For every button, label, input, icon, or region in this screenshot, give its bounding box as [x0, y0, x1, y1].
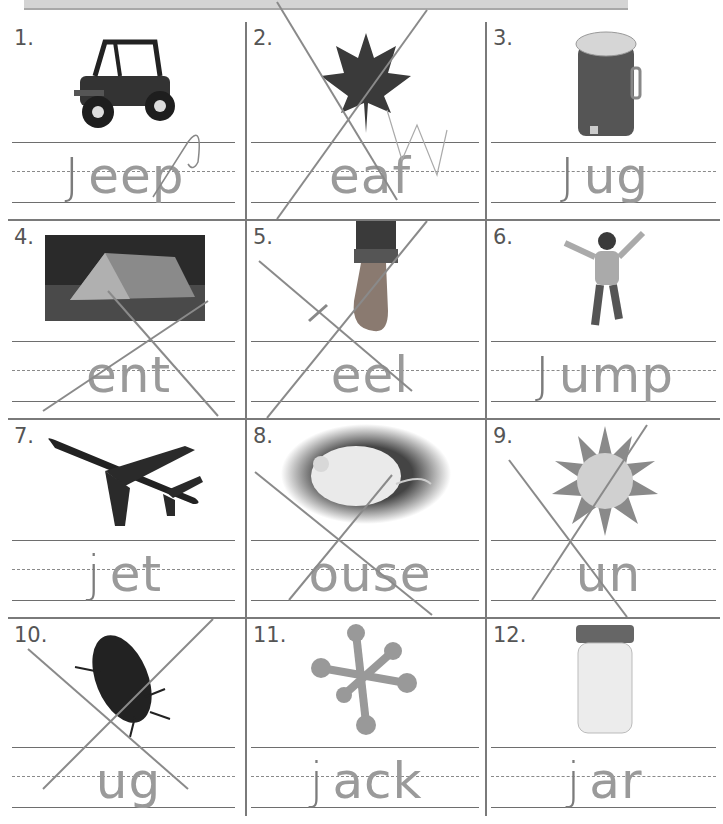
answer-word[interactable]: jack [247, 753, 485, 809]
worksheet-row: 4. ent 5. [8, 221, 720, 420]
airplane-icon [45, 436, 205, 531]
header-band [24, 0, 628, 10]
printed-letters: ack [332, 752, 422, 810]
jeep-icon [60, 28, 190, 140]
printed-letters: ug [96, 752, 161, 810]
printed-letters: ug [584, 147, 649, 205]
jug-icon [560, 28, 650, 143]
printed-letters: ouse [308, 545, 431, 603]
leaf-icon [316, 28, 416, 138]
handwritten-prefix: J [560, 147, 576, 205]
jumping-girl-icon [555, 227, 655, 337]
printed-letters: eaf [329, 147, 411, 205]
printed-letters: ent [86, 346, 171, 404]
printed-letters: eel [331, 346, 409, 404]
worksheet-row: 1. Jeep 2. [8, 22, 720, 221]
answer-word[interactable]: eel [247, 347, 485, 403]
answer-word[interactable]: jar [487, 753, 722, 809]
writing-line-top [491, 747, 716, 748]
writing-line-top [12, 747, 235, 748]
writing-line-top [491, 540, 716, 541]
answer-word[interactable]: eaf [247, 148, 485, 204]
handwritten-prefix: j [310, 752, 325, 810]
item-cell-4: 4. ent [8, 221, 241, 418]
printed-letters: et [110, 545, 162, 603]
item-cell-3: 3. Jug [485, 22, 722, 219]
writing-line-top [251, 540, 479, 541]
writing-line-top [491, 142, 716, 143]
item-number: 7. [14, 424, 34, 448]
worksheet-grid: 1. Jeep 2. [8, 22, 720, 816]
handwritten-prefix: j [566, 752, 581, 810]
writing-line-top [251, 747, 479, 748]
writing-line-top [12, 540, 235, 541]
item-cell-12: 12. jar [485, 619, 722, 816]
printed-letters: ump [559, 346, 674, 404]
item-number: 5. [253, 225, 273, 249]
answer-word[interactable]: jet [8, 546, 241, 602]
jacks-toy-icon [311, 623, 421, 743]
writing-line-top [12, 142, 235, 143]
writing-line-top [12, 341, 235, 342]
writing-line-top [251, 341, 479, 342]
item-number: 9. [493, 424, 513, 448]
worksheet-row: 10. ug 11. [8, 619, 720, 816]
item-cell-5: 5. eel [245, 221, 485, 418]
item-number: 8. [253, 424, 273, 448]
mouse-icon [281, 424, 451, 524]
printed-letters: ar [589, 752, 642, 810]
item-number: 10. [14, 623, 47, 647]
item-number: 1. [14, 26, 34, 50]
handwritten-prefix: j [87, 545, 102, 603]
item-cell-10: 10. ug [8, 619, 241, 816]
item-number: 4. [14, 225, 34, 249]
writing-line-top [491, 341, 716, 342]
writing-line-top [251, 142, 479, 143]
item-number: 11. [253, 623, 286, 647]
item-cell-1: 1. Jeep [8, 22, 241, 219]
item-cell-6: 6. Jump [485, 221, 722, 418]
handwritten-prefix: J [535, 346, 551, 404]
jar-icon [570, 623, 640, 738]
item-cell-8: 8. ouse [245, 420, 485, 617]
item-cell-11: 11. jack [245, 619, 485, 816]
item-cell-2: 2. eaf [245, 22, 485, 219]
answer-word[interactable]: Jeep [8, 148, 241, 204]
heel-icon [326, 221, 406, 336]
item-cell-7: 7. jet [8, 420, 241, 617]
answer-word[interactable]: Jug [487, 148, 722, 204]
sun-icon [550, 426, 660, 536]
item-number: 6. [493, 225, 513, 249]
answer-word[interactable]: ent [8, 347, 241, 403]
item-number: 3. [493, 26, 513, 50]
answer-word[interactable]: Jump [487, 347, 722, 403]
answer-word[interactable]: ug [8, 753, 241, 809]
beetle-icon [70, 627, 180, 742]
worksheet-row: 7. jet 8. [8, 420, 720, 619]
item-number: 12. [493, 623, 526, 647]
printed-letters: eep [88, 147, 184, 205]
answer-word[interactable]: ouse [247, 546, 485, 602]
item-number: 2. [253, 26, 273, 50]
answer-word[interactable]: un [487, 546, 722, 602]
item-cell-9: 9. un [485, 420, 722, 617]
tent-icon [45, 235, 205, 321]
handwritten-prefix: J [64, 147, 80, 205]
printed-letters: un [576, 545, 641, 603]
